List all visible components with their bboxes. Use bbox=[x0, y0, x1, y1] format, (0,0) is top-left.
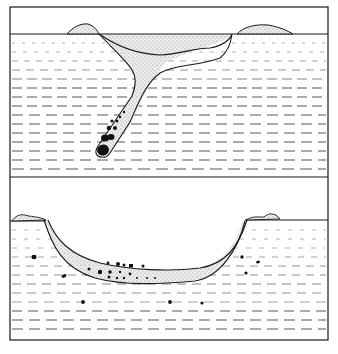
sediment-layers-upper bbox=[12, 43, 326, 169]
upper-panel bbox=[10, 24, 328, 169]
ejecta-mound-right bbox=[237, 25, 293, 34]
lower-panel bbox=[10, 214, 328, 329]
diagram-figure bbox=[0, 0, 338, 354]
rim-mound-right bbox=[246, 214, 280, 220]
rim-mound-left bbox=[12, 215, 46, 221]
ejecta-mound-left bbox=[67, 24, 99, 34]
